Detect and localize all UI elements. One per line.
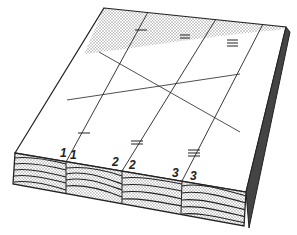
label-3a: 3: [172, 167, 179, 179]
label-1a: 1: [60, 147, 67, 159]
label-1b: 1: [70, 149, 77, 161]
label-2a: 2: [112, 156, 119, 168]
board-diagram: [0, 0, 297, 235]
label-2b: 2: [129, 159, 136, 171]
label-3b: 3: [190, 170, 197, 182]
